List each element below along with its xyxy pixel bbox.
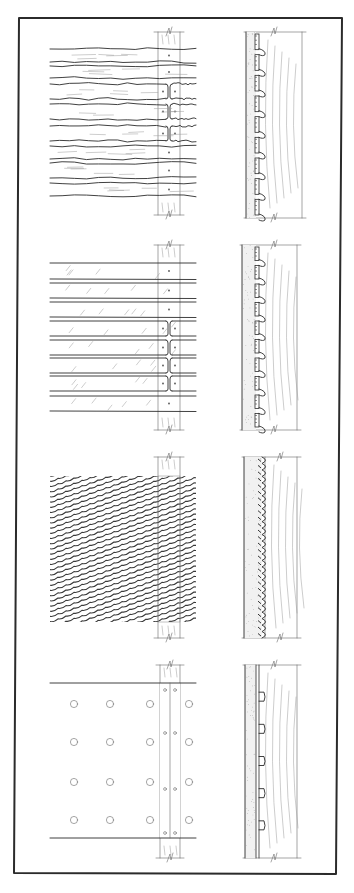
lath-strip (50, 125, 196, 142)
plaster-key (259, 297, 265, 304)
nail-head (162, 365, 164, 367)
plaster-stipple (249, 636, 250, 637)
wood-grain (278, 471, 283, 623)
lath-cross-section (255, 55, 259, 71)
lath-butt-end (170, 376, 172, 391)
wood-grain (285, 477, 290, 618)
wood-grain (174, 248, 175, 257)
lath-strip (50, 376, 196, 391)
wood-grain (172, 322, 176, 327)
perforation-hole (106, 816, 113, 823)
plaster-stipple (253, 49, 254, 50)
plaster-stipple (253, 807, 254, 808)
plaster-stipple (253, 497, 254, 498)
plaster-stipple (248, 631, 249, 632)
plaster-stipple (251, 678, 252, 679)
wood-grain (132, 309, 136, 314)
plaster-stipple (254, 802, 255, 803)
break-line-icon (271, 213, 277, 222)
plaster-stipple (253, 215, 254, 216)
plaster-stipple (253, 171, 254, 172)
plaster-stipple (254, 849, 255, 850)
plaster-stipple (252, 249, 253, 250)
plaster-stipple (260, 459, 261, 460)
section-view (243, 660, 301, 862)
perforation-hole (146, 700, 153, 707)
plaster-stipple (253, 338, 254, 339)
plaster-stipple (248, 676, 249, 677)
wood-grain (271, 465, 276, 628)
plaster-stipple (251, 599, 252, 600)
plaster-stipple (252, 625, 253, 626)
plaster-stipple (247, 677, 248, 678)
plaster-stipple (248, 704, 249, 705)
plaster-stipple (246, 615, 247, 616)
plaster-stipple (250, 179, 251, 180)
perforation-hole (146, 738, 153, 745)
lath-strip (50, 263, 196, 280)
plaster-stipple (253, 490, 254, 491)
wood-grain (104, 330, 108, 335)
plaster-key (259, 389, 265, 396)
plaster-stipple (248, 64, 249, 65)
lath-cross-section (255, 199, 259, 215)
plaster-stipple (253, 717, 254, 718)
plaster-stipple (254, 754, 255, 755)
lath-strip (50, 103, 196, 120)
plaster-stipple (249, 564, 250, 565)
lath-cross-section (255, 96, 259, 112)
wood-grain (155, 274, 159, 279)
plaster-stipple (249, 335, 250, 336)
plaster-stipple (247, 668, 248, 669)
plaster-stipple (255, 494, 256, 495)
plaster-stipple (246, 417, 247, 418)
lath-edge (172, 118, 196, 120)
plaster-stipple (252, 498, 253, 499)
wood-grain (58, 151, 77, 152)
nail-head (168, 71, 170, 73)
plaster-stipple (250, 48, 251, 49)
plaster-stipple (247, 593, 248, 594)
lath-edge (50, 317, 196, 318)
plaster-key (259, 315, 265, 322)
nail-head (168, 403, 170, 405)
wood-grain (265, 673, 270, 848)
plaster-stipple (253, 95, 254, 96)
plaster-stipple (247, 766, 248, 767)
lath-edge (50, 119, 166, 120)
plaster-stipple (246, 808, 247, 809)
plaster-stipple (248, 820, 249, 821)
mesh-strand (50, 605, 202, 658)
plaster-stipple (251, 345, 252, 346)
lath-butt-end (170, 358, 172, 373)
perforation-hole (70, 816, 77, 823)
plaster-stipple (260, 458, 261, 459)
perforation-hole (146, 816, 153, 823)
plaster-stipple (246, 830, 247, 831)
plaster-stipple (253, 257, 254, 258)
plaster-stipple (248, 699, 249, 700)
plaster-key (259, 789, 265, 798)
plaster-stipple (257, 572, 258, 573)
plaster-stipple (249, 203, 250, 204)
plaster-stipple (259, 478, 260, 479)
wood-grain (151, 360, 155, 365)
plaster-stipple (253, 792, 254, 793)
panel-gypsum-lath (50, 660, 301, 862)
lath-butt-end (170, 84, 172, 99)
wood-grain (171, 350, 175, 355)
wood-grain (152, 366, 156, 371)
perforation-hole (146, 778, 153, 785)
lath-strip (50, 162, 196, 179)
plaster-key (259, 260, 265, 267)
plaster-stipple (248, 63, 249, 64)
wood-grain (67, 94, 82, 95)
plaster-stipple (249, 123, 250, 124)
plaster-stipple (247, 712, 248, 713)
perforation-hole (106, 738, 113, 745)
lath-strip (50, 302, 196, 318)
plaster-stipple (249, 484, 250, 485)
plaster-layer (246, 32, 256, 218)
plaster-stipple (250, 59, 251, 60)
break-line-icon (166, 240, 172, 249)
